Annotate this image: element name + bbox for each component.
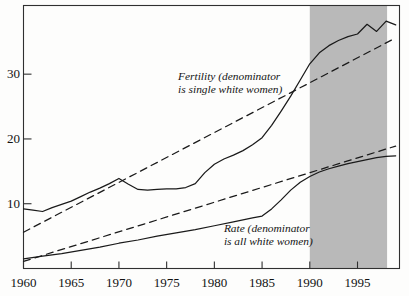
x-tick-label: 1995 [335,275,381,291]
fertility-annotation-line1: Fertility (denominator [178,70,282,83]
x-tick-label: 1990 [287,275,333,291]
x-tick-label: 1970 [96,275,142,291]
x-tick-label: 1960 [1,275,47,291]
y-tick-label: 20 [0,131,20,147]
chart-plot-area [0,0,409,296]
chart-figure: 102030 19601965197019751980198519901995 … [0,0,409,296]
rate-annotation: Rate (denominator is all white women) [224,222,313,249]
fertility-annotation: Fertility (denominator is single white w… [178,70,282,97]
x-tick-label: 1980 [191,275,237,291]
fertility-annotation-line2: is single white women) [178,83,282,96]
y-tick-label: 10 [0,196,20,212]
y-tick-label: 30 [0,66,20,82]
x-tick-label: 1985 [239,275,285,291]
rate-annotation-line2: is all white women) [224,235,313,248]
shaded-region [310,6,387,269]
rate-annotation-line1: Rate (denominator [224,222,313,235]
x-tick-label: 1965 [48,275,94,291]
x-tick-label: 1975 [144,275,190,291]
